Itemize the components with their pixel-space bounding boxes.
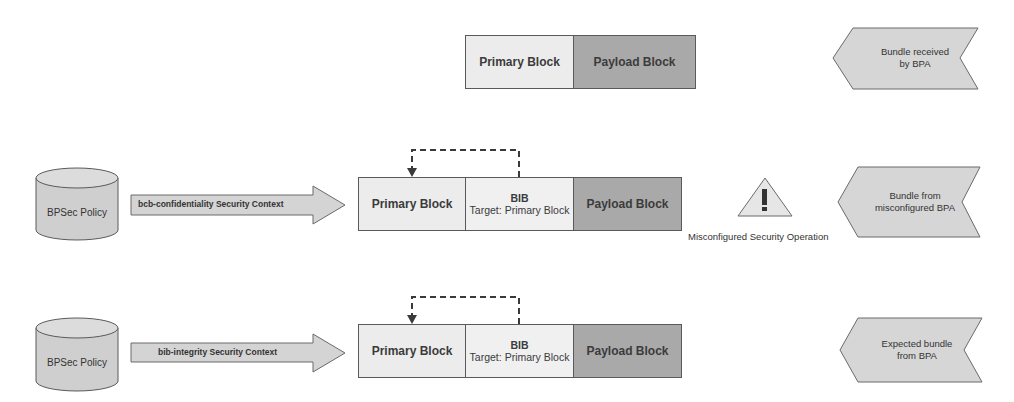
primary-block: Primary Block	[358, 177, 466, 231]
bpsec-policy-cylinder-icon	[36, 318, 118, 391]
policy-label: BPSec Policy	[36, 207, 118, 218]
chevron-label-line1: Expected bundle	[862, 338, 972, 350]
policy-label: BPSec Policy	[36, 357, 118, 368]
chevron-label-line1: Bundle received	[860, 46, 970, 58]
payload-block: Payload Block	[573, 35, 696, 89]
bib-block: BIB Target: Primary Block	[465, 324, 574, 378]
payload-block-label: Payload Block	[586, 197, 668, 211]
primary-block-label: Primary Block	[372, 197, 453, 211]
primary-block-label: Primary Block	[372, 344, 453, 358]
chevron-label: Bundle received by BPA	[860, 46, 970, 70]
payload-block: Payload Block	[573, 324, 682, 378]
chevron-label: Expected bundle from BPA	[862, 338, 972, 362]
bib-block: BIB Target: Primary Block	[465, 177, 574, 231]
primary-block-label: Primary Block	[479, 55, 560, 69]
payload-block-label: Payload Block	[593, 55, 675, 69]
context-arrow-label: bcb-confidentiality Security Context	[138, 199, 283, 209]
context-arrow-label: bib-integrity Security Context	[158, 347, 277, 357]
chevron-label-line2: from BPA	[862, 350, 972, 362]
bib-target: Target: Primary Block	[470, 351, 570, 363]
primary-block: Primary Block	[358, 324, 466, 378]
bib-target-reference-arrow	[407, 150, 519, 177]
chevron-label-line2: misconfigured BPA	[860, 202, 970, 214]
bib-target-reference-arrow	[407, 297, 519, 324]
bib-target: Target: Primary Block	[470, 204, 570, 216]
chevron-label-line1: Bundle from	[860, 190, 970, 202]
bib-title: BIB	[510, 192, 528, 204]
bib-title: BIB	[510, 339, 528, 351]
payload-block-label: Payload Block	[586, 344, 668, 358]
warning-label: Misconfigured Security Operation	[688, 231, 828, 242]
warning-triangle-icon	[738, 178, 792, 216]
payload-block: Payload Block	[573, 177, 682, 231]
primary-block: Primary Block	[465, 35, 574, 89]
chevron-label-line2: by BPA	[860, 58, 970, 70]
bpsec-policy-cylinder-icon	[36, 168, 118, 240]
chevron-label: Bundle from misconfigured BPA	[860, 190, 970, 214]
